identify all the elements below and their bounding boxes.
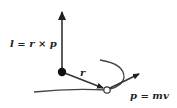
angular-momentum-label: l = r × p [10, 38, 57, 49]
position-vector-label: r [80, 67, 85, 78]
trajectory-curve-upper [100, 60, 124, 89]
momentum-label: p = mv [130, 90, 169, 101]
trajectory-curve [34, 89, 107, 92]
origin-dot [58, 68, 66, 76]
particle-circle [104, 87, 110, 93]
